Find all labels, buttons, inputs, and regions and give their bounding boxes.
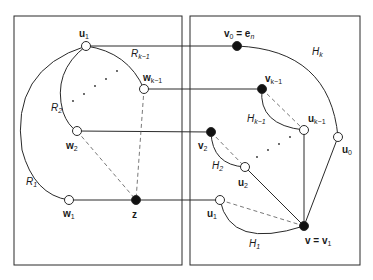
ellipsis-right	[256, 136, 291, 158]
node-wk1	[140, 85, 149, 94]
label-v2: v2	[198, 141, 207, 152]
dashed-vk1-uk1	[262, 89, 304, 130]
node-v2	[207, 128, 216, 137]
label-v0: v0 = en	[224, 29, 254, 40]
label-Hk1: Hk−1	[247, 114, 266, 125]
node-z	[132, 196, 141, 205]
label-H2: H2	[212, 161, 223, 172]
label-w1: w1	[63, 209, 75, 220]
node-u0	[334, 133, 343, 142]
node-u2	[241, 163, 250, 172]
edge-w2-v2	[77, 131, 211, 132]
node-u1-right	[216, 196, 225, 205]
dashed-w2-z	[77, 131, 136, 200]
node-w1	[65, 196, 74, 205]
label-uk1: uk−1	[308, 114, 326, 125]
label-u1-left: u1	[79, 29, 89, 40]
node-w2	[73, 127, 82, 136]
label-u1-right: u1	[207, 209, 217, 220]
label-u2: u2	[238, 178, 248, 189]
left-box	[14, 16, 182, 265]
label-w2: w2	[66, 141, 78, 152]
node-vk1	[258, 85, 267, 94]
label-R1: R1	[26, 177, 37, 188]
label-u0: u0	[342, 145, 352, 156]
label-Hk: Hk	[312, 47, 323, 58]
label-vk1: vk−1	[265, 74, 282, 85]
nodes	[65, 42, 343, 231]
node-u1-left	[82, 42, 91, 51]
edge-u0-v	[304, 137, 338, 226]
label-wk1: wk−1	[143, 73, 162, 84]
arc-R2	[60, 46, 86, 131]
label-R2: R2	[51, 103, 62, 114]
node-v	[300, 222, 309, 231]
dashed-wk1-z	[136, 89, 144, 200]
arc-H1	[220, 200, 304, 234]
node-v0	[233, 42, 242, 51]
label-Rk1: Rk−1	[131, 49, 150, 60]
ellipsis-left	[72, 70, 118, 102]
node-uk1	[300, 126, 309, 135]
label-H1: H1	[249, 239, 260, 250]
label-v: v = v1	[305, 236, 331, 247]
label-z: z	[132, 210, 137, 220]
